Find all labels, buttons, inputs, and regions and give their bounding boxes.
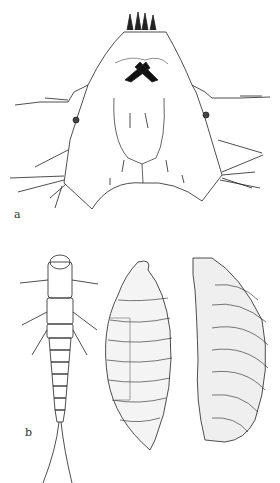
- pupa-lateral-drawing-2: [193, 258, 268, 442]
- larva-dorsal-drawing: [20, 255, 98, 483]
- panel-label-b: b: [25, 426, 32, 439]
- pupa-lateral-drawing-1: [106, 261, 172, 450]
- head-capsule-drawing: [10, 12, 270, 209]
- illustration: [0, 0, 280, 483]
- panel-label-a: a: [14, 208, 21, 221]
